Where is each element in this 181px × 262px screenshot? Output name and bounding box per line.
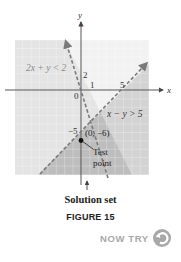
now-try-label: NOW TRY xyxy=(100,233,149,244)
test-point-label-line1: Test xyxy=(93,147,108,157)
figure-caption: FIGURE 15 xyxy=(0,212,181,222)
now-try-button[interactable]: NOW TRY xyxy=(100,228,172,248)
tick-label-y-2: 2 xyxy=(83,70,88,80)
y-axis-label: y xyxy=(77,10,82,20)
test-point-coords: (0, −6) xyxy=(85,128,110,138)
inequality-label-2: x − y > 5 xyxy=(106,109,143,119)
x-axis-label: x xyxy=(166,85,171,95)
now-try-arrow-icon xyxy=(152,228,172,248)
origin-label: 0 xyxy=(74,91,79,101)
inequality-graph: y x 0 2 1 5 −5 2x + y < 2 x − y > 5 (0, … xyxy=(0,0,181,200)
plot-area xyxy=(15,40,149,175)
tick-label-x-1: 1 xyxy=(90,80,95,90)
inequality-label-1: 2x + y < 2 xyxy=(26,63,67,73)
tick-label-y-neg5: −5 xyxy=(68,126,78,136)
tick-label-x-5: 5 xyxy=(120,80,125,90)
solution-set-label: Solution set xyxy=(0,194,181,205)
test-point-marker xyxy=(79,138,84,143)
test-point-label-line2: point xyxy=(93,158,112,168)
